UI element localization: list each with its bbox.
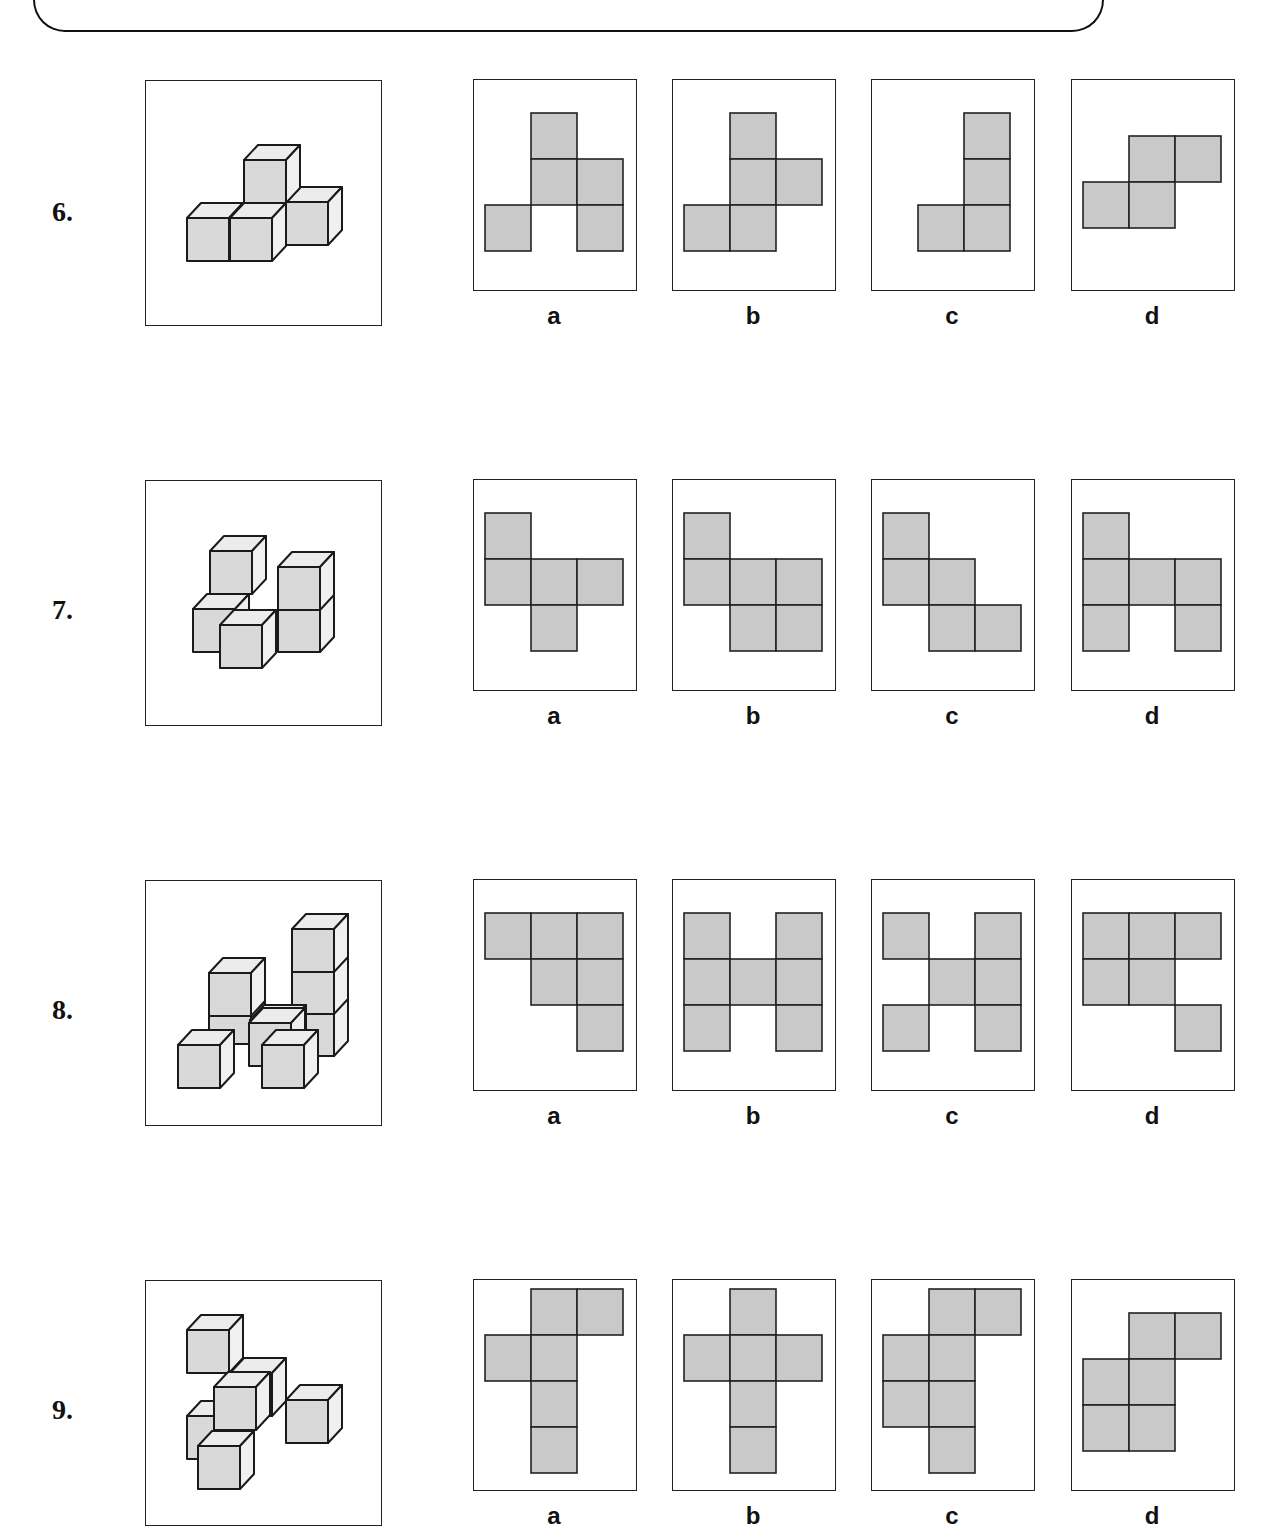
option-b[interactable] — [672, 79, 836, 291]
cube-figure — [145, 480, 382, 726]
option-label: c — [871, 702, 1033, 730]
option-c[interactable] — [871, 479, 1035, 691]
option-label: c — [871, 1102, 1033, 1130]
option-label: b — [672, 302, 834, 330]
option-b[interactable] — [672, 1279, 836, 1491]
option-label: d — [1071, 1502, 1233, 1529]
option-d[interactable] — [1071, 879, 1235, 1091]
option-d[interactable] — [1071, 1279, 1235, 1491]
option-label: a — [473, 702, 635, 730]
option-a[interactable] — [473, 1279, 637, 1491]
question-number: 9. — [52, 1394, 73, 1426]
question-number: 8. — [52, 994, 73, 1026]
option-label: d — [1071, 1102, 1233, 1130]
option-c[interactable] — [871, 879, 1035, 1091]
option-label: a — [473, 1502, 635, 1529]
option-label: b — [672, 702, 834, 730]
option-label: d — [1071, 302, 1233, 330]
option-c[interactable] — [871, 79, 1035, 291]
option-b[interactable] — [672, 479, 836, 691]
option-label: a — [473, 1102, 635, 1130]
option-d[interactable] — [1071, 79, 1235, 291]
instruction-box — [33, 0, 1104, 32]
option-label: d — [1071, 702, 1233, 730]
question-number: 7. — [52, 594, 73, 626]
cube-figure — [145, 80, 382, 326]
option-label: c — [871, 1502, 1033, 1529]
option-a[interactable] — [473, 479, 637, 691]
option-label: c — [871, 302, 1033, 330]
cube-figure — [145, 1280, 382, 1526]
question-number: 6. — [52, 196, 73, 228]
option-b[interactable] — [672, 879, 836, 1091]
cube-figure — [145, 880, 382, 1126]
option-a[interactable] — [473, 79, 637, 291]
option-c[interactable] — [871, 1279, 1035, 1491]
option-label: a — [473, 302, 635, 330]
option-a[interactable] — [473, 879, 637, 1091]
option-d[interactable] — [1071, 479, 1235, 691]
option-label: b — [672, 1502, 834, 1529]
option-label: b — [672, 1102, 834, 1130]
